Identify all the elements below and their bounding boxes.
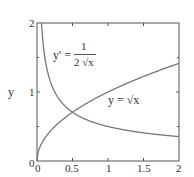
x-tick-1: 1 — [106, 163, 112, 174]
sqrt-curve — [37, 63, 179, 161]
sqrt-label: y = √x — [108, 94, 139, 106]
x-tick-0: 0 — [35, 163, 41, 174]
x-tick-05: 0.5 — [65, 163, 79, 174]
y-tick-2: 2 — [29, 18, 35, 29]
derivative-label-numerator: 1 — [81, 41, 87, 52]
x-tick-15: 1.5 — [137, 163, 151, 174]
y-tick-0: 0 — [29, 158, 35, 169]
derivative-label-denominator: 2 √x — [74, 57, 94, 68]
y-axis-label: y — [8, 86, 14, 98]
y-tick-1: 1 — [29, 87, 35, 98]
derivative-label-lhs: y' = — [53, 49, 71, 61]
x-tick-2: 2 — [176, 163, 182, 174]
fraction-bar — [74, 54, 96, 55]
